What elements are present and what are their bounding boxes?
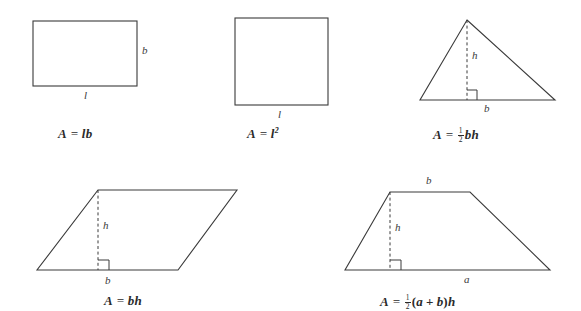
triangle-drawing (385, 0, 581, 155)
triangle-formula-equals: = (442, 127, 457, 142)
trapezium-formula-lhs: A (380, 294, 389, 309)
triangle-fraction-denominator: 2 (458, 136, 464, 144)
trapezium-formula-one-half: 12 (405, 294, 411, 311)
rectangle-drawing (0, 0, 190, 155)
trapezium-base-bottom-label: a (464, 274, 470, 285)
parallelogram-formula-equals: = (113, 293, 128, 308)
trapezium-area-formula: A=12(a+b)h (380, 294, 455, 311)
parallelogram-formula-lhs: A (104, 293, 113, 308)
triangle-formula-term-b: b (465, 127, 472, 142)
triangle-height-label: h (472, 50, 478, 61)
trapezium-formula-term-h: h (448, 294, 455, 309)
rectangle-outline (33, 21, 137, 86)
parallelogram-area-formula: A=bh (104, 294, 142, 307)
trapezium-right-angle-marker (390, 260, 401, 270)
triangle-right-angle-marker (467, 90, 477, 100)
square-drawing (190, 0, 385, 155)
triangle-outline (420, 20, 555, 100)
rectangle-formula-term-b: b (86, 126, 93, 141)
parallelogram-drawing (0, 160, 290, 311)
parallelogram-outline (37, 190, 237, 270)
trapezium-formula-equals: = (389, 294, 404, 309)
shape-triangle: h b A=12bh (385, 0, 581, 155)
rectangle-formula-equals: = (67, 126, 82, 141)
trapezium-formula-plus: + (423, 294, 437, 309)
areas-of-plane-figures-figure: b l A=lb l A=l2 h b A=12bh (0, 0, 581, 311)
shape-trapezium: b h a A=12(a+b)h (290, 160, 581, 311)
rectangle-side-right-label: b (142, 45, 148, 56)
triangle-formula-one-half: 12 (458, 127, 464, 144)
trapezium-drawing (290, 160, 581, 311)
square-area-formula: A=l2 (247, 127, 279, 140)
shape-parallelogram: h b A=bh (0, 160, 290, 311)
square-formula-exponent: 2 (275, 126, 279, 135)
rectangle-formula-lhs: A (58, 126, 67, 141)
rectangle-area-formula: A=lb (58, 127, 92, 140)
trapezium-height-label: h (395, 222, 401, 233)
parallelogram-formula-term-h: h (135, 293, 142, 308)
square-side-bottom-label: l (278, 109, 281, 120)
square-formula-equals: = (256, 126, 271, 141)
parallelogram-base-label: b (105, 275, 111, 286)
shape-square: l A=l2 (190, 0, 385, 155)
triangle-formula-lhs: A (433, 127, 442, 142)
parallelogram-right-angle-marker (98, 260, 109, 270)
square-outline (235, 18, 328, 105)
trapezium-outline (345, 192, 550, 270)
trapezium-fraction-denominator: 2 (405, 303, 411, 311)
parallelogram-height-label: h (103, 220, 109, 231)
square-formula-lhs: A (247, 126, 256, 141)
triangle-base-label: b (484, 103, 490, 114)
rectangle-side-bottom-label: l (84, 90, 87, 101)
shape-rectangle: b l A=lb (0, 0, 190, 155)
triangle-formula-term-h: h (472, 127, 479, 142)
trapezium-base-top-label: b (426, 175, 432, 186)
triangle-area-formula: A=12bh (433, 127, 479, 144)
parallelogram-formula-term-b: b (128, 293, 135, 308)
